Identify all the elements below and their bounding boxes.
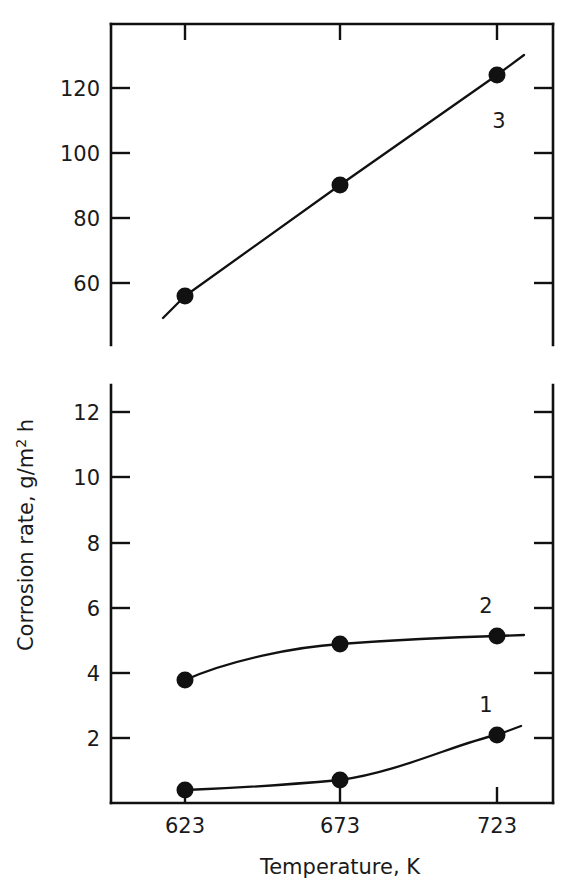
- x-axis-title: Temperature, K: [259, 855, 421, 879]
- chart-figure: 120 100 80 60 3: [0, 0, 580, 888]
- y-axis-title-main: Corrosion rate, g/m: [14, 448, 38, 651]
- lower-ytick-label-6: 6: [87, 597, 100, 621]
- lower-ytick-label-12: 12: [73, 401, 100, 425]
- series-2-point-623: [177, 672, 194, 689]
- lower-ytick-label-2: 2: [87, 727, 100, 751]
- series-3-point-673: [332, 177, 349, 194]
- lower-ytick-label-4: 4: [87, 662, 100, 686]
- xtick-label-673: 673: [320, 814, 360, 838]
- corrosion-rate-chart: 120 100 80 60 3: [0, 0, 580, 888]
- series-3-label: 3: [492, 109, 505, 133]
- y-axis-title: Corrosion rate, g/m2 h: [13, 419, 38, 651]
- y-axis-title-tail: h: [14, 419, 38, 439]
- upper-ytick-label-80: 80: [73, 207, 100, 231]
- series-1-point-623: [177, 782, 194, 799]
- series-1-point-723: [489, 727, 506, 744]
- upper-ytick-label-60: 60: [73, 272, 100, 296]
- series-1-point-673: [332, 772, 349, 789]
- upper-ytick-label-100: 100: [60, 142, 100, 166]
- series-2-point-673: [332, 636, 349, 653]
- xtick-label-623: 623: [165, 814, 205, 838]
- lower-ytick-label-8: 8: [87, 532, 100, 556]
- series-2-point-723: [489, 628, 506, 645]
- series-3-point-723: [489, 67, 506, 84]
- series-3-point-623: [177, 288, 194, 305]
- svg-text:Corrosion rate, g/m2 h: Corrosion rate, g/m2 h: [13, 419, 38, 651]
- lower-ytick-label-10: 10: [73, 466, 100, 490]
- chart-background: [0, 0, 580, 888]
- series-1-label: 1: [479, 693, 492, 717]
- series-2-label: 2: [479, 594, 492, 618]
- upper-ytick-label-120: 120: [60, 77, 100, 101]
- y-axis-title-superscript: 2: [13, 439, 29, 448]
- xtick-label-723: 723: [477, 814, 517, 838]
